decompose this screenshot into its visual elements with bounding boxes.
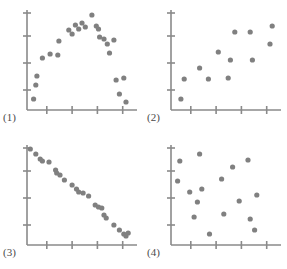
panel-1-axes — [23, 10, 137, 114]
panel-2-axes — [167, 10, 281, 114]
panel-4-plot — [144, 135, 287, 269]
panel-4-axes — [167, 145, 281, 249]
panel-2-label: (2) — [147, 112, 160, 123]
panel-2-plot — [144, 0, 287, 134]
panel-3: (3) — [0, 135, 143, 269]
panel-1-label: (1) — [3, 112, 16, 123]
panel-2-points — [178, 23, 274, 101]
panel-3-plot — [0, 135, 143, 269]
panel-1-points — [31, 12, 129, 104]
panel-4: (4) — [144, 135, 287, 269]
panel-1: (1) — [0, 0, 143, 134]
panel-3-label: (3) — [3, 247, 16, 258]
panel-1-plot — [0, 0, 143, 134]
panel-2: (2) — [144, 0, 287, 134]
panel-3-points — [28, 146, 131, 238]
panel-4-points — [175, 151, 259, 236]
panel-4-label: (4) — [147, 247, 160, 258]
scatterplot-figure: (1) (2) (3) (4) — [0, 0, 287, 269]
